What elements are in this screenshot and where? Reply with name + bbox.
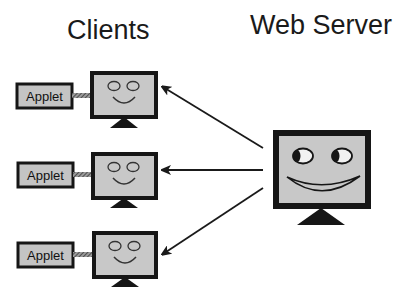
- applet-connector: [73, 172, 92, 177]
- client-1: Applet: [17, 73, 156, 128]
- server-left-eye: [293, 149, 313, 164]
- arrow-to-client-3: [163, 188, 263, 254]
- applet-label: Applet: [27, 248, 64, 263]
- client-monitor-icon: [92, 73, 156, 128]
- applet-connector: [72, 93, 92, 98]
- applet-box: Applet: [18, 163, 73, 187]
- applet-label: Applet: [26, 89, 63, 104]
- arrow-to-client-1: [163, 87, 263, 148]
- client-server-diagram: Applet Applet Applet: [0, 0, 400, 302]
- server-right-eye: [332, 149, 352, 164]
- applet-label: Applet: [27, 168, 64, 183]
- web-server-monitor-icon: [276, 133, 368, 225]
- client-2: Applet: [18, 154, 156, 208]
- request-arrows: [163, 87, 263, 254]
- applet-box: Applet: [17, 84, 72, 108]
- client-monitor-icon: [94, 233, 156, 287]
- applet-box: Applet: [18, 243, 73, 267]
- client-monitor-icon: [93, 154, 156, 208]
- client-3: Applet: [18, 233, 156, 287]
- applet-connector: [73, 252, 93, 257]
